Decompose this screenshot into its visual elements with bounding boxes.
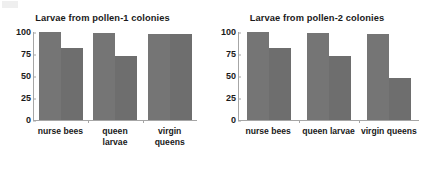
x-tick-label: nurse bees (33, 126, 88, 147)
y-tick: 25 (226, 94, 236, 103)
y-tick: 50 (226, 72, 236, 81)
plot-area: 100 75 50 25 0 (33, 32, 197, 147)
bar (93, 33, 115, 120)
bar (39, 32, 61, 120)
y-tick: 75 (226, 50, 236, 59)
x-axis-labels: nurse bees queen larvae virgin queens (33, 126, 197, 147)
y-tick: 100 (221, 28, 236, 37)
y-tick: 50 (21, 72, 31, 81)
y-tick: 75 (21, 50, 31, 59)
bar (170, 34, 192, 120)
bar (247, 32, 269, 120)
bar (389, 78, 411, 120)
x-tick-label: nurse bees (238, 126, 298, 137)
bar (307, 33, 329, 120)
bar (115, 56, 137, 120)
y-tick: 100 (16, 28, 31, 37)
x-axis-labels: nurse bees queen larvae virgin queens (238, 126, 419, 137)
bar-group (88, 32, 142, 120)
plot-canvas: 100 75 50 25 0 (33, 32, 197, 121)
plot-canvas: 100 75 50 25 0 (238, 32, 419, 121)
y-tick: 0 (26, 116, 31, 125)
bar (148, 34, 170, 120)
bar-group (34, 32, 88, 120)
x-tick-label: virgin queens (142, 126, 197, 147)
plot-area: 100 75 50 25 0 (238, 32, 419, 137)
chart-pollen-2: Larvae from pollen-2 colonies 100 75 50 … (205, 0, 429, 185)
bar-groups (239, 32, 419, 120)
bar-groups (34, 32, 197, 120)
bar-group (239, 32, 299, 120)
chart-title: Larvae from pollen-2 colonies (205, 13, 429, 23)
chart-pollen-1: Larvae from pollen-1 colonies 100 75 50 … (0, 0, 205, 185)
bar-group (299, 32, 359, 120)
y-axis: 100 75 50 25 0 (7, 32, 31, 120)
y-tick: 25 (21, 94, 31, 103)
bar (269, 48, 291, 120)
chart-panel: Larvae from pollen-1 colonies 100 75 50 … (0, 0, 429, 185)
bar (61, 48, 83, 120)
y-axis: 100 75 50 25 0 (212, 32, 236, 120)
x-tick-label: virgin queens (359, 126, 419, 137)
bar (367, 34, 389, 120)
chart-title: Larvae from pollen-1 colonies (0, 13, 205, 23)
bar-group (359, 32, 419, 120)
bar (329, 56, 351, 120)
y-tick: 0 (231, 116, 236, 125)
x-tick-label: queen larvae (88, 126, 143, 147)
bar-group (143, 32, 197, 120)
x-tick-label: queen larvae (298, 126, 358, 137)
